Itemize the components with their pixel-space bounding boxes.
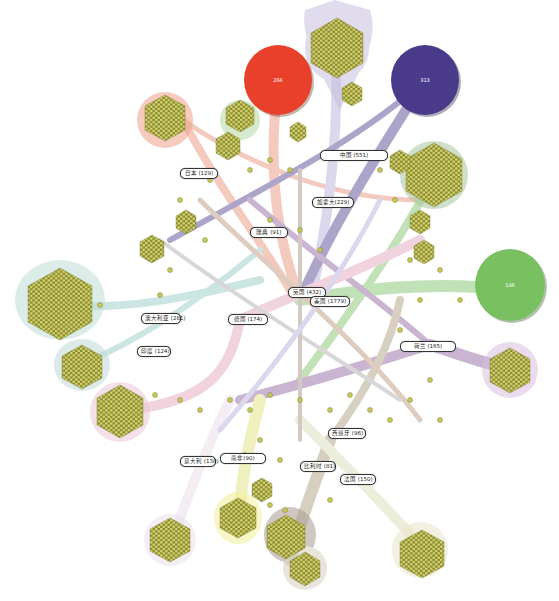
label-germany: 德国 (174) <box>228 314 268 325</box>
big-circle-indigo-label: 313 <box>410 77 440 83</box>
label-sweden: 瑞典 (91) <box>250 227 288 238</box>
label-canada: 加拿大(229) <box>312 197 354 208</box>
network-edges <box>60 45 515 560</box>
label-france: 法国 (150) <box>340 474 376 485</box>
network-diagram: 266 313 146 中国 (551) 日本 (129) 加拿大(229) 瑞… <box>0 0 559 601</box>
label-india: 印度 (124) <box>137 346 171 357</box>
label-italy: 意大利 (138) <box>180 456 216 467</box>
label-china: 中国 (551) <box>320 150 388 161</box>
label-belgium: 比利时 (81) <box>300 461 336 472</box>
label-spain: 西班牙 (96) <box>328 428 366 439</box>
label-australia: 澳大利亚 (281) <box>141 313 181 324</box>
label-japan: 日本 (129) <box>180 168 218 179</box>
label-usa: 美国 (1779) <box>310 296 350 307</box>
big-circle-green-label: 146 <box>495 282 525 288</box>
big-circle-red-label: 266 <box>263 77 293 83</box>
label-netherlands: 荷兰 (165) <box>400 341 456 352</box>
diagram-canvas <box>0 0 559 601</box>
label-south-africa: 南非(90) <box>220 453 266 464</box>
